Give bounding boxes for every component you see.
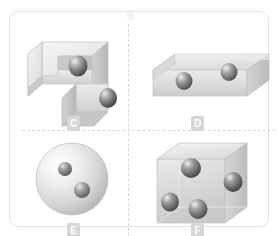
sphere — [181, 158, 201, 178]
figure-d-illustration — [129, 24, 277, 130]
sphere — [224, 172, 243, 192]
figure-cell-e[interactable] — [20, 131, 128, 236]
shape-l-block — [28, 42, 108, 126]
figure-cell-d[interactable] — [129, 24, 277, 130]
panel-top-nub — [127, 12, 134, 20]
shape-flat-box — [153, 54, 269, 96]
sphere — [74, 182, 90, 198]
sphere — [176, 72, 193, 90]
figure-label-e: E — [67, 223, 80, 236]
sphere — [161, 193, 179, 212]
figure-c-illustration — [20, 24, 128, 130]
figure-label-d: D — [191, 116, 204, 131]
sphere — [221, 63, 238, 81]
sphere — [189, 199, 208, 219]
shape-sphere — [36, 143, 108, 215]
sphere — [99, 88, 117, 108]
figure-f-illustration — [129, 131, 277, 236]
figure-label-f: F — [191, 223, 204, 236]
sphere — [69, 56, 88, 77]
figure-e-illustration — [20, 131, 128, 236]
figure-cell-c[interactable] — [20, 24, 128, 130]
sphere — [58, 162, 72, 176]
figure-label-c: C — [67, 116, 80, 131]
geometry-figure-panel: C D E F — [9, 11, 269, 227]
figure-cell-f[interactable] — [129, 131, 277, 236]
